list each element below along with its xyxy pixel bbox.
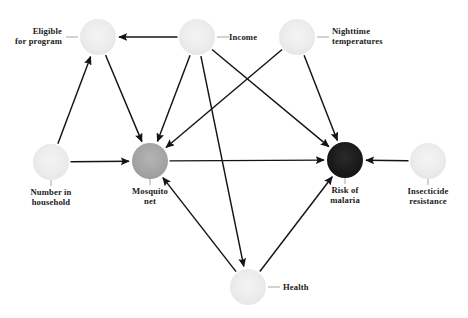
node-label-line2-household: household <box>32 197 71 207</box>
edge-nighttime-net <box>166 50 282 148</box>
node-health[interactable] <box>230 269 266 305</box>
edge-income-malaria <box>212 49 329 146</box>
node-insecticide[interactable] <box>410 143 446 179</box>
node-label-household: Number inhousehold <box>30 187 71 207</box>
node-label-line1-income: Income <box>229 32 257 42</box>
edge-eligible-net <box>106 55 142 142</box>
node-nighttime[interactable] <box>279 19 315 55</box>
node-malaria[interactable] <box>327 142 363 178</box>
node-eligible[interactable] <box>80 19 116 55</box>
node-label-line1-health: Health <box>283 282 309 292</box>
node-net[interactable] <box>132 143 168 179</box>
node-income[interactable] <box>179 19 215 55</box>
node-household[interactable] <box>33 144 69 180</box>
node-label-line1-eligible: Eligible <box>33 26 62 36</box>
edge-income-net <box>157 55 190 141</box>
node-label-health: Health <box>283 282 309 292</box>
node-label-line1-nighttime: Nighttime <box>332 26 370 36</box>
node-label-eligible: Eligiblefor program <box>15 26 63 46</box>
node-label-line1-insecticide: Insecticide <box>408 186 449 196</box>
causal-diagram-svg: Eligiblefor programIncomeNighttimetemper… <box>0 0 468 318</box>
node-label-line2-eligible: for program <box>15 36 63 46</box>
causal-diagram-canvas: Eligiblefor programIncomeNighttimetemper… <box>0 0 468 318</box>
node-label-line1-household: Number in <box>30 187 71 197</box>
edge-health-malaria <box>260 177 332 272</box>
edge-nighttime-malaria <box>304 55 337 140</box>
node-label-line2-nighttime: temperatures <box>332 36 383 46</box>
edge-household-net <box>71 161 130 162</box>
node-label-insecticide: Insecticideresistance <box>408 186 449 206</box>
edge-net-malaria <box>170 160 325 161</box>
node-label-line1-malaria: Risk of <box>331 185 358 195</box>
edge-insect-malaria <box>366 160 409 161</box>
node-label-income: Income <box>229 32 257 42</box>
node-label-line1-net: Mosquito <box>132 186 168 196</box>
edge-health-net <box>163 178 236 272</box>
edge-household-eligible <box>58 57 91 144</box>
node-label-net: Mosquitonet <box>132 186 168 206</box>
node-label-nighttime: Nighttimetemperatures <box>332 26 383 46</box>
node-label-malaria: Risk ofmalaria <box>330 185 360 205</box>
node-label-line2-net: net <box>144 196 156 206</box>
node-label-line2-insecticide: resistance <box>409 196 447 206</box>
node-label-line2-malaria: malaria <box>330 195 360 205</box>
